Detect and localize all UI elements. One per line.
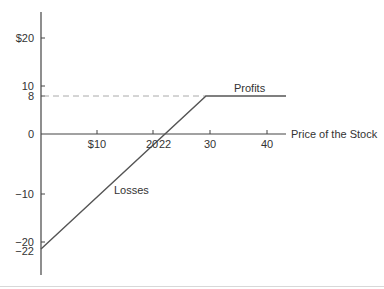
payoff-line (41, 96, 286, 249)
y-tick-label-0: 0 (4, 129, 34, 140)
losses-annotation: Losses (114, 185, 149, 196)
y-tick-label-neg10: −10 (4, 189, 34, 200)
chart-plot-area (0, 0, 384, 289)
y-tick-label-neg22: −22 (4, 246, 34, 257)
x-tick-label-10: $10 (82, 139, 112, 150)
x-axis-title: Price of the Stock (291, 129, 377, 140)
profits-annotation: Profits (234, 83, 265, 94)
bottom-divider (0, 286, 384, 287)
y-tick-label-20: $20 (4, 33, 34, 44)
x-tick-label-22: 22 (159, 139, 171, 150)
x-tick-label-40: 40 (252, 139, 282, 150)
x-tick-label-30: 30 (195, 139, 225, 150)
y-tick-label-8: 8 (4, 91, 34, 102)
x-tick-label-20: 20 (146, 139, 158, 150)
